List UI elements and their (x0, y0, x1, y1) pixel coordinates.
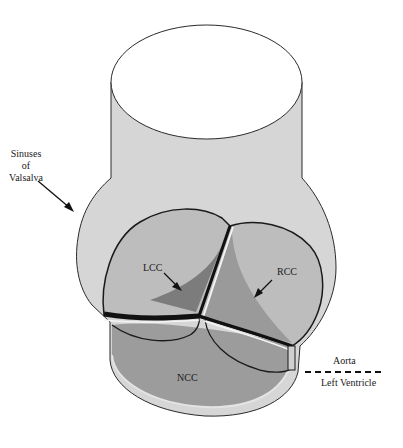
sinuses-of-valsalva-label: Sinuses of Valsalva (4, 148, 48, 184)
sinuses-label-line-1: Sinuses (4, 148, 48, 160)
lcc-label: LCC (143, 262, 162, 274)
rcc-label: RCC (277, 266, 297, 278)
commissure-post (288, 346, 295, 370)
aorta-label: Aorta (333, 355, 356, 367)
sinuses-label-line-3: Valsalva (4, 172, 48, 184)
sinuses-label-line-2: of (4, 160, 48, 172)
sinus-arrow (38, 181, 74, 212)
left-ventricle-label: Left Ventricle (321, 377, 376, 389)
ncc-label: NCC (177, 372, 198, 384)
aortic-lumen-opening (111, 25, 302, 139)
